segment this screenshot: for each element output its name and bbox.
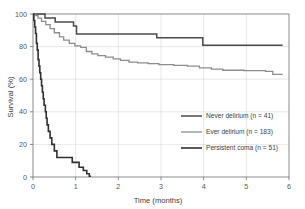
axis-tickmarks (30, 14, 289, 180)
y-tick-label: 80 (19, 42, 27, 51)
y-tick-label: 20 (19, 140, 27, 149)
x-tick-label: 4 (202, 182, 206, 191)
survival-chart-figure: 0123456 020406080100 Never delirium (n =… (0, 0, 305, 209)
x-tick-label: 0 (31, 182, 35, 191)
legend-label-ever-delirium: Ever delirium (n = 183) (206, 128, 273, 136)
legend-label-never-delirium: Never delirium (n = 41) (206, 112, 273, 120)
y-axis-tick-labels: 020406080100 (15, 10, 27, 182)
x-tick-label: 1 (74, 182, 78, 191)
y-tick-label: 60 (19, 75, 27, 84)
chart-canvas: 0123456 020406080100 Never delirium (n =… (0, 0, 305, 209)
x-tick-label: 2 (116, 182, 120, 191)
legend-label-persistent-coma: Persistent coma (n = 51) (206, 144, 278, 152)
survival-curve-persistent-coma (33, 14, 91, 176)
chart-legend: Never delirium (n = 41)Ever delirium (n … (181, 112, 278, 152)
y-tick-label: 0 (23, 173, 27, 182)
y-tick-label: 100 (15, 10, 27, 19)
survival-curve-ever-delirium (33, 14, 283, 74)
survival-curves (33, 14, 283, 176)
y-axis-title: Survival (%) (6, 76, 15, 117)
x-tick-label: 3 (159, 182, 163, 191)
x-tick-label: 5 (244, 182, 248, 191)
survival-curve-never-delirium (33, 14, 283, 45)
x-axis-tick-labels: 0123456 (31, 182, 291, 191)
x-axis-title: Time (months) (134, 196, 183, 205)
y-tick-label: 40 (19, 107, 27, 116)
x-tick-label: 6 (287, 182, 291, 191)
